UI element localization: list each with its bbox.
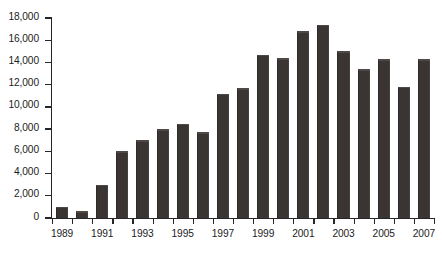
bar <box>237 88 249 218</box>
bar-highlight <box>398 87 410 89</box>
bar-highlight <box>337 51 349 53</box>
bar-highlight <box>418 59 430 61</box>
bar-highlight <box>217 94 229 96</box>
x-axis-tick-mark <box>394 218 395 224</box>
bar <box>297 31 309 218</box>
x-axis-tick-mark <box>354 218 355 224</box>
y-axis-tick-mark <box>45 40 52 41</box>
y-axis-tick-label: 18,000 <box>8 11 39 22</box>
y-axis-tick-mark <box>45 62 52 63</box>
bar <box>76 211 88 218</box>
bar-highlight <box>76 211 88 213</box>
x-axis-tick-mark <box>374 218 375 224</box>
y-axis-tick-label: 0 <box>33 211 39 222</box>
bar <box>96 185 108 218</box>
bar-chart: 02,0004,0006,0008,00010,00012,00014,0001… <box>0 0 442 255</box>
bar <box>317 25 329 218</box>
x-axis-tick-mark <box>414 218 415 224</box>
x-axis-tick-mark <box>233 218 234 224</box>
x-axis-tick-mark <box>213 218 214 224</box>
x-axis-tick-mark <box>313 218 314 224</box>
y-axis-tick-label: 12,000 <box>8 77 39 88</box>
x-axis-tick-label: 1999 <box>252 228 274 239</box>
y-axis-tick-mark <box>45 195 52 196</box>
x-axis-tick-mark <box>333 218 334 224</box>
bar <box>378 59 390 218</box>
bar-highlight <box>378 59 390 61</box>
x-axis-tick-label: 1989 <box>51 228 73 239</box>
bar <box>217 94 229 218</box>
bar-highlight <box>317 25 329 27</box>
bar-highlight <box>197 132 209 134</box>
bar <box>56 207 68 218</box>
x-axis-tick-mark <box>112 218 113 224</box>
x-axis-tick-label: 2001 <box>292 228 314 239</box>
y-axis-tick-mark <box>45 17 52 18</box>
y-axis-tick-mark <box>45 173 52 174</box>
y-axis-tick-label: 6,000 <box>14 144 39 155</box>
bar-highlight <box>96 185 108 187</box>
bar-highlight <box>56 207 68 209</box>
bar-highlight <box>177 124 189 126</box>
bar-highlight <box>277 58 289 60</box>
x-axis-tick-label: 2007 <box>413 228 435 239</box>
bar-highlight <box>237 88 249 90</box>
y-axis-tick-label: 2,000 <box>14 188 39 199</box>
plot-area <box>52 18 434 218</box>
bar <box>337 51 349 218</box>
y-axis-tick-label: 10,000 <box>8 99 39 110</box>
bar-highlight <box>116 151 128 153</box>
x-axis-tick-label: 1995 <box>172 228 194 239</box>
x-axis-tick-mark <box>434 218 435 224</box>
bar <box>197 132 209 218</box>
x-axis-tick-mark <box>92 218 93 224</box>
y-axis-tick-label: 8,000 <box>14 122 39 133</box>
bar <box>358 69 370 218</box>
x-axis-tick-mark <box>153 218 154 224</box>
bar <box>398 87 410 218</box>
y-axis-tick-mark <box>45 128 52 129</box>
x-axis-tick-mark <box>193 218 194 224</box>
x-axis-tick-mark <box>173 218 174 224</box>
bar <box>177 124 189 218</box>
bar <box>418 59 430 218</box>
bar-highlight <box>358 69 370 71</box>
bar-highlight <box>136 140 148 142</box>
bar <box>257 55 269 218</box>
x-axis-tick-label: 2005 <box>373 228 395 239</box>
x-axis-tick-mark <box>253 218 254 224</box>
x-axis-tick-label: 1991 <box>91 228 113 239</box>
x-axis-tick-label: 1997 <box>212 228 234 239</box>
bar <box>157 129 169 218</box>
x-axis-tick-mark <box>72 218 73 224</box>
y-axis-tick-mark <box>45 106 52 107</box>
y-axis-tick-label: 14,000 <box>8 55 39 66</box>
x-axis-tick-mark <box>132 218 133 224</box>
bar <box>136 140 148 218</box>
y-axis-tick-mark <box>45 84 52 85</box>
y-axis-tick-label: 16,000 <box>8 33 39 44</box>
y-axis-tick-label: 4,000 <box>14 166 39 177</box>
y-axis-tick-mark <box>45 151 52 152</box>
bar <box>116 151 128 218</box>
x-axis-tick-mark <box>52 218 53 224</box>
y-axis-tick-mark <box>45 217 52 218</box>
x-axis-tick-label: 1993 <box>131 228 153 239</box>
x-axis-tick-mark <box>293 218 294 224</box>
bar <box>277 58 289 218</box>
x-axis-tick-mark <box>273 218 274 224</box>
bar-highlight <box>157 129 169 131</box>
bar-highlight <box>257 55 269 57</box>
x-axis-tick-label: 2003 <box>332 228 354 239</box>
bar-highlight <box>297 31 309 33</box>
